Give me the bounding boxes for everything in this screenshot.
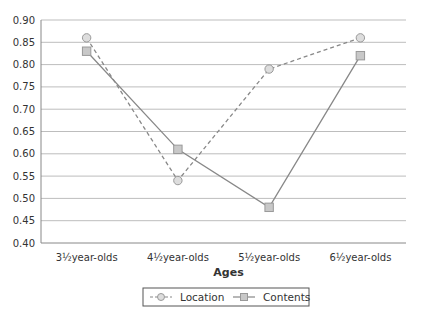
series-line [87, 51, 361, 207]
legend-marker [241, 294, 248, 301]
data-point [356, 34, 364, 42]
y-tick-label: 0.50 [13, 193, 35, 204]
data-point [174, 145, 182, 153]
legend-label: Contents [263, 291, 310, 303]
x-tick-label: 3½year-olds [56, 252, 118, 263]
y-axis-ticks: 0.900.850.800.750.700.650.600.550.500.45… [13, 15, 35, 249]
series-group [82, 34, 364, 212]
data-point [265, 203, 273, 211]
x-tick-label: 4½year-olds [147, 252, 209, 263]
legend: LocationContents [143, 288, 310, 306]
line-chart: 0.900.850.800.750.700.650.600.550.500.45… [0, 0, 423, 319]
legend-label: Location [180, 291, 224, 303]
grid-lines [41, 20, 406, 221]
legend-marker [158, 294, 165, 301]
y-tick-label: 0.65 [13, 126, 35, 137]
x-axis-ticks: 3½year-olds4½year-olds5½year-olds6½year-… [56, 252, 392, 263]
y-tick-label: 0.80 [13, 59, 35, 70]
y-tick-label: 0.45 [13, 215, 35, 226]
series-contents [82, 47, 364, 211]
y-tick-label: 0.85 [13, 37, 35, 48]
data-point [82, 47, 90, 55]
y-tick-label: 0.60 [13, 148, 35, 159]
data-point [174, 176, 182, 184]
data-point [356, 51, 364, 59]
x-tick-label: 6½year-olds [329, 252, 391, 263]
y-tick-label: 0.90 [13, 15, 35, 26]
x-tick-label: 5½year-olds [238, 252, 300, 263]
x-axis-title: Ages [213, 266, 244, 279]
y-tick-label: 0.55 [13, 171, 35, 182]
y-tick-label: 0.40 [13, 238, 35, 249]
y-tick-label: 0.70 [13, 104, 35, 115]
y-tick-label: 0.75 [13, 81, 35, 92]
data-point [82, 34, 90, 42]
data-point [265, 65, 273, 73]
